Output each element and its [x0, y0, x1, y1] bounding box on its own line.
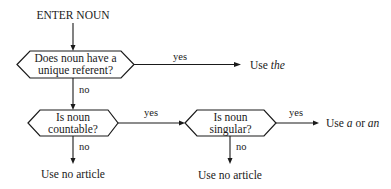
start-label: ENTER NOUN [36, 9, 110, 21]
decision-unique-referent: Does noun have a unique referent? [17, 51, 134, 78]
decision-countable: Is noun countable? [28, 110, 118, 136]
edge-label-no: no [236, 141, 247, 152]
edge-label-no: no [79, 141, 90, 152]
edge-label-yes: yes [289, 107, 303, 118]
decision-line1: Is noun [56, 111, 90, 123]
decision-line2: singular? [209, 123, 251, 136]
outcome-use-the: Use the [250, 59, 285, 71]
edge-label-no: no [79, 84, 90, 95]
outcome-article-an: an [368, 117, 380, 129]
article-flowchart: ENTER NOUN Does noun have a unique refer… [0, 0, 391, 189]
arrow-head-icon [71, 104, 76, 110]
outcome-no-article: Use no article [198, 169, 262, 181]
arrow-head-icon [234, 62, 241, 67]
arrow-head-icon [71, 45, 76, 51]
arrow-head-icon [179, 121, 185, 126]
outcome-use-a-or-an: Use a or an [326, 117, 380, 129]
arrow-head-icon [71, 158, 76, 164]
edge-label-yes: yes [173, 51, 187, 62]
outcome-no-article: Use no article [41, 168, 105, 180]
arrow-head-icon [313, 121, 319, 126]
outcome-conjunction: or [353, 117, 368, 129]
decision-line2: unique referent? [38, 64, 113, 77]
outcome-article: the [271, 59, 285, 71]
outcome-prefix: Use [250, 59, 271, 71]
decision-line1: Is noun [213, 111, 247, 123]
outcome-prefix: Use [326, 117, 347, 129]
edge-label-yes: yes [144, 107, 158, 118]
decision-line1: Does noun have a [34, 52, 116, 64]
decision-singular: Is noun singular? [185, 110, 276, 136]
decision-line2: countable? [48, 123, 98, 135]
arrow-head-icon [228, 158, 233, 164]
